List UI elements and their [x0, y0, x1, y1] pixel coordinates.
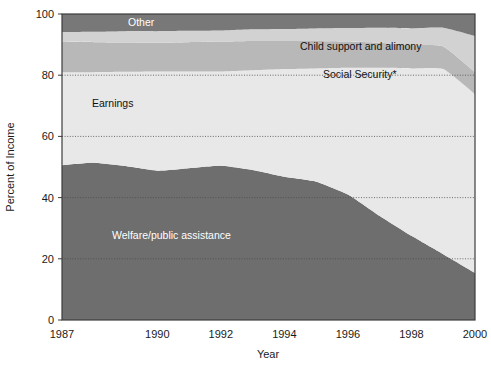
- stacked-area-chart: 020406080100 198719901992199419961998200…: [0, 0, 491, 368]
- y-tick-label-0: 0: [48, 314, 54, 326]
- series-label-2: Social Security*: [323, 68, 397, 80]
- x-tick-label-2000: 2000: [463, 328, 487, 340]
- x-tick-label-1998: 1998: [399, 328, 423, 340]
- y-tick-label-80: 80: [42, 69, 54, 81]
- series-label-4: Welfare/public assistance: [112, 229, 231, 241]
- series-label-0: Other: [128, 16, 155, 28]
- x-tick-label-1990: 1990: [145, 328, 169, 340]
- x-axis-title: Year: [257, 348, 280, 360]
- area-series-group: [62, 14, 475, 320]
- y-tick-label-100: 100: [36, 8, 54, 20]
- x-tick-label-1994: 1994: [272, 328, 296, 340]
- series-label-3: Earnings: [92, 97, 133, 109]
- x-tick-label-1992: 1992: [209, 328, 233, 340]
- y-axis-title: Percent of Income: [4, 122, 16, 211]
- chart-container: 020406080100 198719901992199419961998200…: [0, 0, 491, 368]
- x-tick-label-1987: 1987: [50, 328, 74, 340]
- y-tick-label-20: 20: [42, 253, 54, 265]
- y-tick-label-40: 40: [42, 192, 54, 204]
- series-label-1: Child support and alimony: [300, 40, 422, 52]
- x-tick-label-1996: 1996: [336, 328, 360, 340]
- y-tick-label-60: 60: [42, 130, 54, 142]
